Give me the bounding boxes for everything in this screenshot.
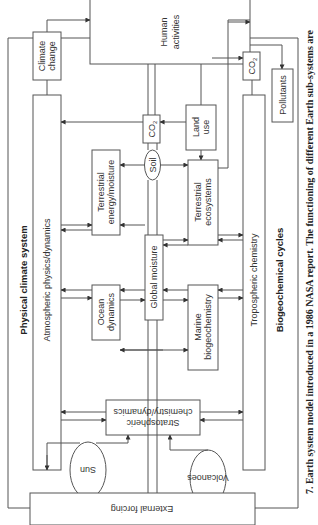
figure-caption: 7. Earth system model introduced in a 19… <box>304 29 315 494</box>
physical-climate-system-label: Physical climate system <box>18 225 29 334</box>
volcanoes-label: Volcanoes <box>187 473 229 483</box>
svg-text:biogeochemistry: biogeochemistry <box>203 294 213 360</box>
climate-change-label: Climate change <box>37 41 57 72</box>
sun-label: Sun <box>80 465 96 475</box>
pollutants-label: Pollutants <box>278 75 288 115</box>
svg-text:Marine: Marine <box>193 313 203 341</box>
human-activities-box <box>90 0 250 64</box>
svg-text:Terrestrial: Terrestrial <box>96 172 106 212</box>
svg-text:Land: Land <box>191 117 201 137</box>
svg-text:Ocean: Ocean <box>96 299 106 326</box>
svg-text:Global moisture: Global moisture <box>149 245 159 308</box>
svg-text:7. Earth system model introdu: 7. Earth system model introduced in a 19… <box>304 29 315 494</box>
svg-text:change: change <box>47 41 57 71</box>
atmospheric-label: Atmospheric physics/dynamics <box>42 218 52 342</box>
tropospheric-label: Tropospheric chemistry <box>249 233 259 327</box>
svg-text:Atmospheric physics/dynamics: Atmospheric physics/dynamics <box>42 218 52 342</box>
svg-text:Sun: Sun <box>80 465 96 475</box>
soil-label: Soil <box>148 157 158 172</box>
biogeochemical-cycles-label: Biogeochemical cycles <box>274 228 285 333</box>
land-use-label: Land use <box>191 117 211 137</box>
external-forcing-label: External forcing <box>111 504 174 514</box>
svg-text:Terrestrial: Terrestrial <box>193 182 203 222</box>
svg-text:Stratospheric: Stratospheric <box>126 418 180 428</box>
svg-text:activities: activities <box>171 14 181 49</box>
svg-text:ecosystems: ecosystems <box>203 178 213 226</box>
global-moisture-label: Global moisture <box>149 245 159 308</box>
svg-text:use: use <box>201 120 211 135</box>
earth-system-diagram: Human activities Climate change Physical… <box>0 0 318 525</box>
svg-text:Tropospheric chemistry: Tropospheric chemistry <box>249 233 259 327</box>
svg-text:Climate: Climate <box>37 41 47 72</box>
svg-text:energy/moisture: energy/moisture <box>106 160 116 225</box>
svg-text:Biogeochemical cycles: Biogeochemical cycles <box>274 228 285 333</box>
svg-text:dynamics: dynamics <box>106 292 116 331</box>
svg-text:Human: Human <box>159 17 169 46</box>
svg-text:Pollutants: Pollutants <box>278 75 288 115</box>
svg-text:Soil: Soil <box>148 157 158 172</box>
svg-text:Physical climate system: Physical climate system <box>18 225 29 334</box>
terrestrial-ecosystems-label: Terrestrial ecosystems <box>193 178 213 226</box>
svg-text:External forcing: External forcing <box>111 504 174 514</box>
svg-text:chemistry/dynamics: chemistry/dynamics <box>113 407 193 417</box>
svg-text:Volcanoes: Volcanoes <box>187 473 229 483</box>
